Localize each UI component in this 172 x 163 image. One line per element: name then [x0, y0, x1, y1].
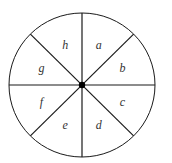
sector-label-c: c — [120, 95, 126, 109]
spinner-diagram: abcdefgh — [0, 0, 172, 163]
sector-label-h: h — [62, 38, 68, 52]
sector-label-g: g — [39, 61, 45, 75]
sector-label-d: d — [96, 118, 103, 132]
sector-label-e: e — [63, 118, 69, 132]
sector-label-b: b — [119, 61, 125, 75]
center-pivot — [79, 82, 85, 88]
sector-label-a: a — [96, 38, 102, 52]
